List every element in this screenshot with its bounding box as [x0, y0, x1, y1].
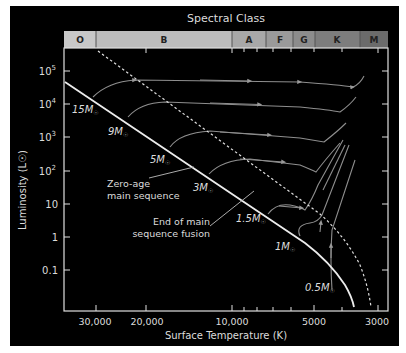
class-m-label: M: [370, 35, 379, 45]
svg-text:10: 10: [45, 199, 58, 210]
svg-text:105: 105: [39, 64, 56, 77]
svg-text:20,000: 20,000: [130, 316, 163, 327]
svg-text:104: 104: [39, 97, 57, 110]
class-g-label: G: [300, 35, 307, 45]
class-f-label: F: [277, 35, 283, 45]
svg-text:5000: 5000: [302, 316, 326, 327]
mass-label-5: 5M☉: [150, 154, 170, 166]
eoms-label-line1: End of main: [153, 216, 210, 227]
chart-title: Spectral Class: [64, 12, 388, 25]
class-b-label: B: [161, 35, 168, 45]
class-k-label: K: [334, 35, 342, 45]
svg-text:10,000: 10,000: [215, 316, 248, 327]
mass-label-15: 15M☉: [72, 104, 99, 116]
mass-label-9: 9M☉: [108, 126, 128, 138]
svg-text:0.1: 0.1: [42, 265, 58, 276]
svg-text:103: 103: [39, 130, 56, 143]
zams-label-line2: main sequence: [107, 190, 180, 201]
zams-label-line1: Zero-age: [107, 178, 150, 189]
y-tick-labels: 105 104 103 102 10 1 0.1: [39, 64, 58, 276]
mass-label-1: 1M☉: [275, 241, 295, 253]
hr-diagram: O B A F G K M: [0, 0, 406, 353]
svg-text:3000: 3000: [365, 316, 389, 327]
svg-text:30,000: 30,000: [78, 316, 111, 327]
spectral-class-bar: O B A F G K M: [64, 31, 388, 48]
mass-label-0-5: 0.5M☉: [305, 282, 335, 294]
eoms-label-line2: sequence fusion: [132, 228, 210, 239]
y-axis-label: Luminosity (L☉): [17, 150, 28, 230]
x-axis-label: Surface Temperature (K): [64, 330, 388, 341]
mass-label-3: 3M☉: [193, 182, 213, 194]
class-o-label: O: [76, 35, 84, 45]
svg-text:1: 1: [52, 232, 58, 243]
x-tick-labels: 30,000 20,000 10,000 5000 3000: [78, 316, 389, 327]
class-a-label: A: [246, 35, 253, 45]
svg-text:102: 102: [39, 164, 56, 177]
zams-pointer: [149, 167, 194, 178]
